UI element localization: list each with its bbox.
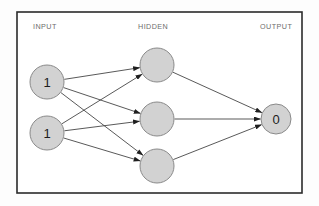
input-node[interactable]: 1 (30, 116, 64, 150)
diagram-canvas: 110 INPUTHIDDENOUTPUT (0, 0, 319, 206)
node-value-label: 0 (272, 112, 279, 127)
input-node[interactable]: 1 (30, 65, 64, 99)
node-value-label: 1 (43, 126, 50, 141)
neural-network-diagram: 110 INPUTHIDDENOUTPUT (0, 0, 319, 206)
node-circle[interactable] (140, 149, 174, 183)
output-label: OUTPUT (260, 22, 292, 31)
hidden-node[interactable] (140, 48, 174, 82)
hidden-node[interactable] (140, 102, 174, 136)
node-circle[interactable] (140, 48, 174, 82)
output-node[interactable]: 0 (261, 104, 291, 134)
node-value-label: 1 (43, 75, 50, 90)
hidden-node[interactable] (140, 149, 174, 183)
input-label: INPUT (33, 22, 57, 31)
hidden-label: HIDDEN (138, 22, 168, 31)
node-circle[interactable] (140, 102, 174, 136)
